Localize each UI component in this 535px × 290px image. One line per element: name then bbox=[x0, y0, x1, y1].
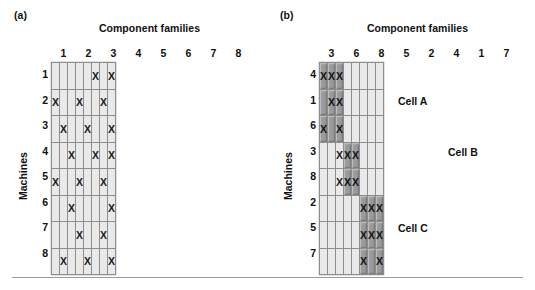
matrix-cell-marked[interactable]: X bbox=[100, 169, 108, 196]
matrix-cell-empty[interactable] bbox=[344, 248, 352, 275]
matrix-cell-marked-shaded[interactable]: X bbox=[360, 248, 368, 275]
matrix-cell-empty[interactable] bbox=[352, 195, 360, 222]
matrix-cell-empty[interactable] bbox=[352, 63, 360, 90]
matrix-cell-empty[interactable] bbox=[320, 195, 328, 222]
matrix-cell-empty[interactable] bbox=[100, 142, 108, 169]
matrix-cell-empty[interactable] bbox=[344, 116, 352, 143]
matrix-cell-empty[interactable] bbox=[60, 195, 68, 222]
matrix-cell-marked[interactable]: X bbox=[60, 116, 68, 143]
matrix-cell-marked[interactable]: X bbox=[52, 169, 60, 196]
matrix-cell-empty[interactable] bbox=[76, 142, 84, 169]
matrix-cell-empty[interactable] bbox=[328, 222, 336, 249]
matrix-cell-marked-shaded[interactable]: X bbox=[360, 222, 368, 249]
matrix-cell-empty[interactable] bbox=[100, 248, 108, 275]
matrix-cell-marked-shaded[interactable]: X bbox=[328, 89, 336, 116]
matrix-cell-marked-shaded[interactable]: X bbox=[376, 248, 384, 275]
matrix-cell-empty[interactable] bbox=[344, 63, 352, 90]
matrix-cell-marked[interactable]: X bbox=[60, 248, 68, 275]
matrix-cell-marked[interactable]: X bbox=[108, 116, 116, 143]
matrix-cell-empty[interactable] bbox=[60, 63, 68, 90]
matrix-cell-empty[interactable] bbox=[108, 222, 116, 249]
matrix-cell-marked-shaded[interactable]: X bbox=[328, 63, 336, 90]
matrix-cell-empty[interactable] bbox=[328, 248, 336, 275]
matrix-cell-empty[interactable] bbox=[52, 116, 60, 143]
matrix-cell-empty[interactable] bbox=[368, 142, 376, 169]
matrix-cell-empty-shaded[interactable] bbox=[320, 89, 328, 116]
matrix-cell-empty[interactable] bbox=[320, 142, 328, 169]
matrix-cell-empty[interactable] bbox=[52, 222, 60, 249]
matrix-cell-empty[interactable] bbox=[352, 116, 360, 143]
matrix-cell-empty[interactable] bbox=[108, 169, 116, 196]
matrix-cell-empty[interactable] bbox=[328, 142, 336, 169]
matrix-cell-empty[interactable] bbox=[92, 169, 100, 196]
matrix-cell-marked-shaded[interactable]: X bbox=[352, 142, 360, 169]
matrix-cell-marked-shaded[interactable]: X bbox=[352, 169, 360, 196]
matrix-cell-empty[interactable] bbox=[376, 116, 384, 143]
matrix-cell-empty[interactable] bbox=[76, 63, 84, 90]
matrix-cell-empty[interactable] bbox=[344, 195, 352, 222]
matrix-cell-marked[interactable]: X bbox=[336, 142, 344, 169]
matrix-cell-empty[interactable] bbox=[76, 116, 84, 143]
matrix-cell-empty[interactable] bbox=[52, 248, 60, 275]
matrix-cell-empty[interactable] bbox=[60, 89, 68, 116]
matrix-cell-empty[interactable] bbox=[68, 89, 76, 116]
matrix-cell-empty[interactable] bbox=[100, 195, 108, 222]
matrix-cell-empty[interactable] bbox=[328, 195, 336, 222]
matrix-cell-empty-shaded[interactable] bbox=[368, 248, 376, 275]
matrix-cell-empty[interactable] bbox=[320, 222, 328, 249]
matrix-cell-marked-shaded[interactable]: X bbox=[344, 169, 352, 196]
matrix-cell-empty[interactable] bbox=[52, 195, 60, 222]
matrix-cell-empty[interactable] bbox=[336, 248, 344, 275]
matrix-cell-marked[interactable]: X bbox=[52, 89, 60, 116]
matrix-cell-empty[interactable] bbox=[68, 222, 76, 249]
matrix-cell-marked[interactable]: X bbox=[100, 222, 108, 249]
matrix-cell-empty[interactable] bbox=[68, 169, 76, 196]
matrix-cell-marked[interactable]: X bbox=[108, 142, 116, 169]
matrix-cell-empty[interactable] bbox=[76, 195, 84, 222]
matrix-cell-empty[interactable] bbox=[360, 89, 368, 116]
matrix-cell-empty[interactable] bbox=[60, 142, 68, 169]
matrix-cell-empty[interactable] bbox=[352, 222, 360, 249]
matrix-cell-marked[interactable]: X bbox=[84, 248, 92, 275]
matrix-cell-empty[interactable] bbox=[352, 248, 360, 275]
matrix-cell-empty[interactable] bbox=[68, 63, 76, 90]
matrix-cell-empty[interactable] bbox=[52, 63, 60, 90]
matrix-cell-empty[interactable] bbox=[320, 169, 328, 196]
matrix-cell-marked[interactable]: X bbox=[68, 142, 76, 169]
matrix-cell-empty[interactable] bbox=[376, 63, 384, 90]
matrix-cell-empty[interactable] bbox=[84, 89, 92, 116]
matrix-cell-empty[interactable] bbox=[100, 116, 108, 143]
matrix-cell-empty[interactable] bbox=[320, 248, 328, 275]
matrix-cell-empty[interactable] bbox=[352, 89, 360, 116]
matrix-cell-empty[interactable] bbox=[376, 169, 384, 196]
matrix-cell-marked[interactable]: X bbox=[76, 169, 84, 196]
matrix-cell-empty[interactable] bbox=[368, 116, 376, 143]
matrix-cell-empty[interactable] bbox=[360, 169, 368, 196]
matrix-cell-marked[interactable]: X bbox=[108, 248, 116, 275]
matrix-cell-marked-shaded[interactable]: X bbox=[336, 63, 344, 90]
matrix-cell-marked-shaded[interactable]: X bbox=[336, 116, 344, 143]
matrix-cell-marked-shaded[interactable]: X bbox=[336, 89, 344, 116]
matrix-cell-marked-shaded[interactable]: X bbox=[320, 63, 328, 90]
matrix-cell-empty[interactable] bbox=[68, 248, 76, 275]
matrix-cell-empty[interactable] bbox=[100, 63, 108, 90]
matrix-cell-empty[interactable] bbox=[344, 222, 352, 249]
matrix-cell-empty[interactable] bbox=[84, 169, 92, 196]
matrix-cell-empty[interactable] bbox=[92, 222, 100, 249]
matrix-cell-empty[interactable] bbox=[376, 142, 384, 169]
matrix-cell-empty[interactable] bbox=[68, 116, 76, 143]
matrix-cell-empty[interactable] bbox=[336, 222, 344, 249]
matrix-cell-empty[interactable] bbox=[328, 169, 336, 196]
matrix-cell-empty[interactable] bbox=[60, 169, 68, 196]
matrix-cell-empty[interactable] bbox=[376, 89, 384, 116]
matrix-cell-empty[interactable] bbox=[84, 63, 92, 90]
matrix-cell-empty[interactable] bbox=[92, 195, 100, 222]
matrix-cell-marked-shaded[interactable]: X bbox=[368, 222, 376, 249]
matrix-cell-marked-shaded[interactable]: X bbox=[376, 222, 384, 249]
matrix-cell-empty[interactable] bbox=[360, 63, 368, 90]
matrix-cell-marked-shaded[interactable]: X bbox=[368, 195, 376, 222]
matrix-cell-empty[interactable] bbox=[368, 169, 376, 196]
matrix-cell-empty[interactable] bbox=[52, 142, 60, 169]
matrix-cell-empty[interactable] bbox=[76, 248, 84, 275]
matrix-cell-marked[interactable]: X bbox=[92, 63, 100, 90]
